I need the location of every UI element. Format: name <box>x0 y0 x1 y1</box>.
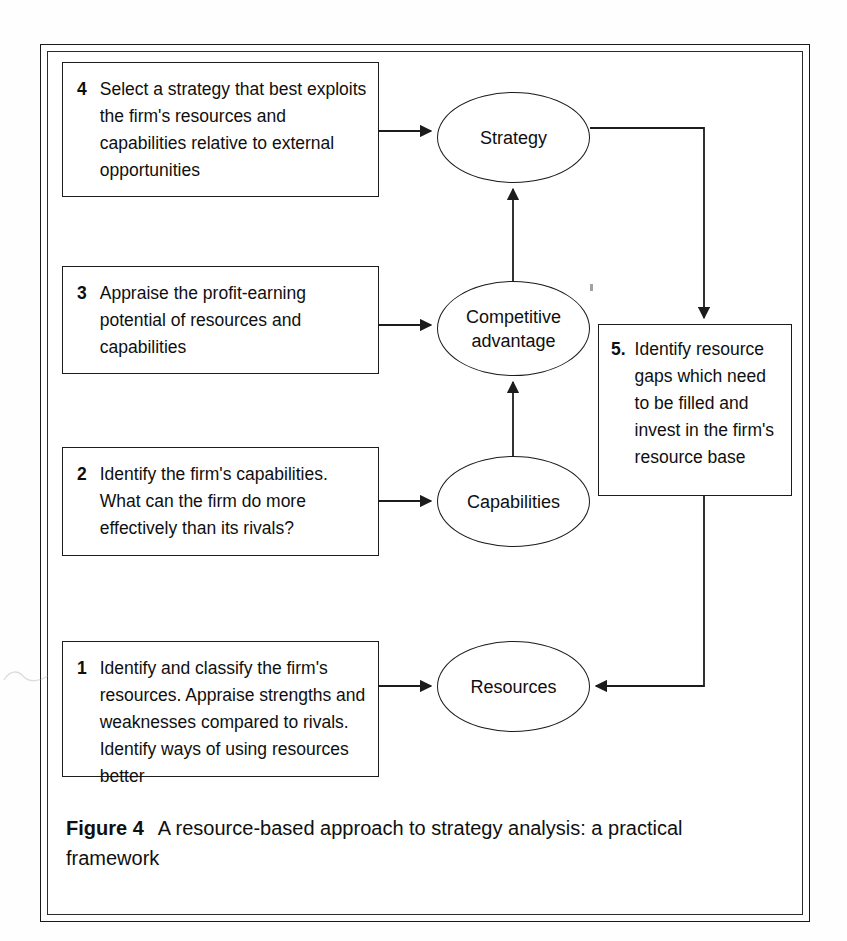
step-box-5[interactable]: 5. Identify resource gaps which need to … <box>598 324 792 496</box>
step-number-4: 4 <box>77 76 87 103</box>
node-strategy[interactable]: Strategy <box>437 92 590 183</box>
figure-page: 4 Select a strategy that best exploits t… <box>0 0 847 941</box>
step-box-2[interactable]: 2 Identify the firm's capabilities. What… <box>62 447 379 556</box>
node-capabilities[interactable]: Capabilities <box>437 456 590 547</box>
step-box-1[interactable]: 1 Identify and classify the firm's resou… <box>62 641 379 777</box>
step-text-3: Appraise the profit-earning potential of… <box>100 280 368 361</box>
step-text-2: Identify the firm's capabilities. What c… <box>100 461 368 542</box>
step-number-5: 5. <box>611 336 626 363</box>
step-number-3: 3 <box>77 280 87 307</box>
figure-caption-label: Figure 4 <box>66 817 144 839</box>
step-text-1: Identify and classify the firm's resourc… <box>100 655 368 790</box>
scan-speck <box>590 284 593 291</box>
node-resources[interactable]: Resources <box>437 641 590 732</box>
node-competitive-advantage[interactable]: Competitive advantage <box>437 281 590 376</box>
step-box-3[interactable]: 3 Appraise the profit-earning potential … <box>62 266 379 374</box>
figure-caption-text: A resource-based approach to strategy an… <box>66 817 683 869</box>
figure-caption: Figure 4A resource-based approach to str… <box>66 813 756 873</box>
scan-artifact <box>2 668 50 684</box>
step-text-4: Select a strategy that best exploits the… <box>100 76 368 184</box>
node-resources-label: Resources <box>470 675 556 699</box>
node-competitive-advantage-label: Competitive advantage <box>438 305 589 353</box>
step-number-2: 2 <box>77 461 87 488</box>
node-capabilities-label: Capabilities <box>467 490 560 514</box>
node-strategy-label: Strategy <box>480 126 547 150</box>
step-text-5: Identify resource gaps which need to be … <box>635 336 783 471</box>
step-box-4[interactable]: 4 Select a strategy that best exploits t… <box>62 62 379 197</box>
step-number-1: 1 <box>77 655 87 682</box>
